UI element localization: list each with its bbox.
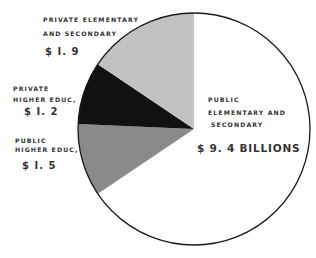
value-public-elementary: $ 9. 4 BILLIONS bbox=[197, 143, 300, 154]
pie-chart bbox=[0, 0, 316, 258]
value-private-higher: $ I. 2 bbox=[24, 107, 58, 117]
label-private-higher-line2: HIGHER EDUC, bbox=[13, 97, 76, 103]
label-public-elementary-line3: SECONDARY bbox=[211, 122, 263, 128]
label-private-elementary-line2: AND SECONDARY bbox=[43, 31, 117, 37]
value-public-higher: $ I. 5 bbox=[22, 161, 56, 171]
label-private-higher-line1: PRIVATE bbox=[13, 86, 49, 92]
label-public-higher-line1: PUBLIC bbox=[15, 138, 47, 144]
label-public-higher-line2: HIGHER EDUC, bbox=[15, 147, 78, 153]
label-private-elementary-line1: PRIVATE ELEMENTARY bbox=[43, 17, 139, 23]
pie-slices bbox=[78, 13, 310, 245]
value-private-elementary: $ I. 9 bbox=[45, 47, 79, 57]
label-public-elementary-line2: ELEMENTARY AND bbox=[208, 110, 286, 116]
label-public-elementary-line1: PUBLIC bbox=[208, 97, 240, 103]
